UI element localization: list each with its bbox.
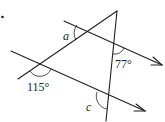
angle-115-label: 115° — [27, 80, 50, 94]
bullet-dot — [1, 16, 4, 19]
angle-115-arc — [30, 69, 51, 76]
geometry-diagram: a 77° 115° c — [0, 0, 165, 122]
angle-c-arc — [96, 92, 107, 109]
angle-77-arc — [113, 48, 124, 54]
upper-parallel-line — [64, 21, 162, 65]
angle-a-arc — [74, 25, 77, 40]
angle-c-label: c — [86, 100, 92, 114]
arrowhead-icon — [134, 104, 145, 111]
left-transversal — [18, 11, 117, 79]
angle-77-label: 77° — [115, 57, 132, 71]
angle-a-label: a — [63, 29, 69, 43]
